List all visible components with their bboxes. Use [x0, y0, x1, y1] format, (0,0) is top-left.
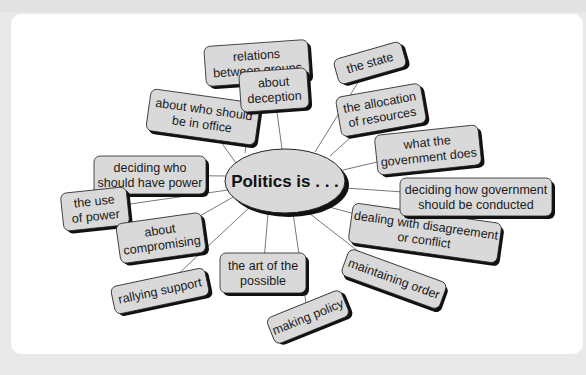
concept-node-making-policy: making policy: [266, 288, 355, 348]
concept-node-deception: aboutdeception: [239, 67, 313, 115]
node-label: deciding how government: [405, 183, 548, 197]
concept-node-govt-conducted: deciding how governmentshould be conduct…: [400, 178, 555, 219]
node-label: possible: [240, 274, 286, 288]
node-label: should be conducted: [418, 198, 533, 212]
center-node: Politics is . . .: [225, 149, 349, 217]
concept-node-rallying: rallying support: [110, 267, 213, 318]
concept-node-state: the state: [333, 40, 411, 88]
node-label: deciding who: [114, 161, 187, 175]
node-label: should have power: [98, 176, 203, 190]
concept-node-art-possible: the art of thepossible: [220, 253, 309, 296]
concept-node-govt-does: what thegovernment does: [374, 124, 485, 178]
concept-map: relationsbetween groupsabout who shouldb…: [0, 0, 586, 375]
concept-node-maintaining-order: maintaining order: [339, 248, 450, 314]
center-node-label: Politics is . . .: [231, 172, 339, 191]
node-label: the art of the: [228, 259, 298, 273]
node-label: about: [257, 74, 290, 90]
